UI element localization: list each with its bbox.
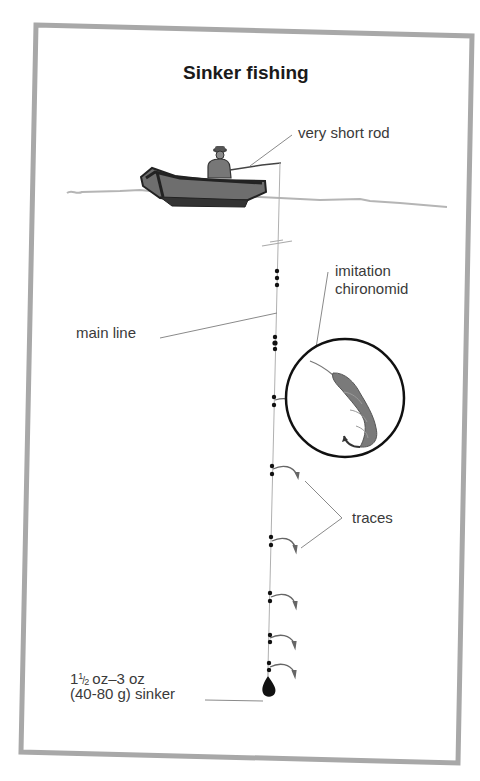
chironomid-icon xyxy=(286,339,404,457)
fraction-numerator: 1 xyxy=(78,671,82,681)
illustration xyxy=(0,0,480,781)
label-traces: traces xyxy=(352,509,393,527)
diagram-title: Sinker fishing xyxy=(183,62,309,84)
label-lure-line2: chironomid xyxy=(335,280,408,298)
label-rod: very short rod xyxy=(298,124,390,142)
label-lure-line1: imitation xyxy=(335,262,391,280)
label-main-line: main line xyxy=(76,324,136,342)
sinker-fishing-diagram: Sinker fishing very short rod imitation … xyxy=(0,0,480,781)
label-sinker-metric: (40-80 g) sinker xyxy=(70,685,175,703)
